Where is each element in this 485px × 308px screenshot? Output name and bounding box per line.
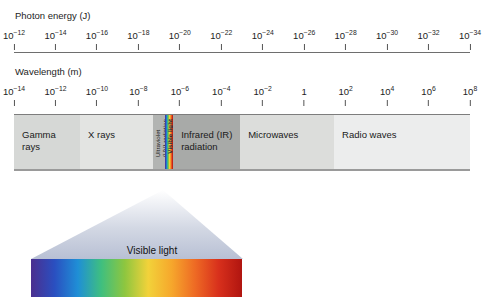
spectrum-region-ultraviolet-uv-radiation: Ultraviolet (UV) radiation xyxy=(153,115,165,169)
wavelength-tick-mark xyxy=(138,100,139,106)
visible-light-gradient-bar xyxy=(31,259,242,297)
electromagnetic-spectrum-band: Gamma raysX raysUltraviolet (UV) radiati… xyxy=(14,114,470,169)
wavelength-tick-label: 10−6 xyxy=(171,86,189,97)
wavelength-tick-label: 10−2 xyxy=(254,86,272,97)
spectrum-region-infrared-ir-radiation: Infrared (IR) radiation xyxy=(173,115,240,169)
photon-energy-tick: 10−20 xyxy=(169,30,191,50)
wavelength-tick: 10−4 xyxy=(212,86,230,106)
photon-energy-tick-label: 10−30 xyxy=(376,30,398,41)
wavelength-tick-label: 106 xyxy=(421,86,435,97)
wavelength-tick-mark xyxy=(221,100,222,106)
wavelength-tick: 106 xyxy=(421,86,435,106)
photon-energy-tick-label: 10−22 xyxy=(210,30,232,41)
photon-energy-tick-mark xyxy=(469,44,470,50)
wavelength-tick-label: 108 xyxy=(463,86,477,97)
wavelength-tick-mark xyxy=(387,100,388,106)
photon-energy-tick-mark xyxy=(179,44,180,50)
wavelength-tick-label: 10−12 xyxy=(44,86,66,97)
wavelength-tick-label: 10−14 xyxy=(3,86,25,97)
spectrum-region-label: X rays xyxy=(88,129,115,141)
photon-energy-tick-label: 10−16 xyxy=(86,30,108,41)
wavelength-tick: 10−8 xyxy=(129,86,147,106)
wavelength-tick-label: 10−4 xyxy=(212,86,230,97)
spectrum-region-label: Radio waves xyxy=(342,129,396,141)
wavelength-tick-label: 10−8 xyxy=(129,86,147,97)
photon-energy-tick: 10−24 xyxy=(252,30,274,50)
wavelength-tick-mark xyxy=(304,100,305,106)
photon-energy-tick-mark xyxy=(221,44,222,50)
photon-energy-tick: 10−30 xyxy=(376,30,398,50)
spectrum-region-x-rays: X rays xyxy=(80,115,153,169)
photon-energy-tick-label: 10−18 xyxy=(127,30,149,41)
wavelength-tick-mark xyxy=(13,100,14,106)
photon-energy-tick-mark xyxy=(96,44,97,50)
wavelength-tick: 1 xyxy=(302,86,307,106)
photon-energy-tick: 10−28 xyxy=(335,30,357,50)
photon-energy-tick-label: 10−20 xyxy=(169,30,191,41)
photon-energy-tick-mark xyxy=(262,44,263,50)
photon-energy-tick-label: 10−34 xyxy=(459,30,481,41)
wavelength-tick: 10−10 xyxy=(86,86,108,106)
spectrum-region-label: Microwaves xyxy=(248,129,298,141)
wavelength-tick-mark xyxy=(428,100,429,106)
photon-energy-tick: 10−16 xyxy=(86,30,108,50)
wavelength-tick: 10−14 xyxy=(3,86,25,106)
spectrum-region-visible-light: Visible light xyxy=(165,115,173,169)
photon-energy-axis-line xyxy=(14,52,470,53)
wavelength-tick-label: 10−10 xyxy=(86,86,108,97)
photon-energy-tick-label: 10−32 xyxy=(417,30,439,41)
wavelength-tick-label: 102 xyxy=(338,86,352,97)
wavelength-tick: 10−12 xyxy=(44,86,66,106)
wavelength-axis-title: Wavelength (m) xyxy=(15,66,82,77)
photon-energy-tick-mark xyxy=(13,44,14,50)
spectrum-region-gamma-rays: Gamma rays xyxy=(14,115,80,169)
visible-light-caption: Visible light xyxy=(100,245,204,256)
wavelength-tick-label: 1 xyxy=(302,86,307,97)
photon-energy-tick: 10−12 xyxy=(3,30,25,50)
wavelength-tick-mark xyxy=(345,100,346,106)
photon-energy-tick: 10−22 xyxy=(210,30,232,50)
photon-energy-tick-mark xyxy=(55,44,56,50)
wavelength-tick-mark xyxy=(55,100,56,106)
spectrum-region-label: Gamma rays xyxy=(22,129,56,152)
wavelength-tick: 10−2 xyxy=(254,86,272,106)
photon-energy-tick-label: 10−26 xyxy=(293,30,315,41)
wavelength-tick: 102 xyxy=(338,86,352,106)
wavelength-tick-mark xyxy=(262,100,263,106)
photon-energy-tick-label: 10−14 xyxy=(44,30,66,41)
wavelength-tick-mark xyxy=(96,100,97,106)
wavelength-scale: 10−1410−1210−1010−810−610−410−2110210410… xyxy=(14,86,470,112)
spectrum-region-label: Infrared (IR) radiation xyxy=(181,129,232,152)
photon-energy-tick-mark xyxy=(304,44,305,50)
wavelength-tick-mark xyxy=(179,100,180,106)
spectrum-region-microwaves: Microwaves xyxy=(240,115,334,169)
photon-energy-tick: 10−18 xyxy=(127,30,149,50)
photon-energy-tick-mark xyxy=(387,44,388,50)
wavelength-tick: 108 xyxy=(463,86,477,106)
photon-energy-axis-title: Photon energy (J) xyxy=(15,10,91,21)
photon-energy-tick-mark xyxy=(428,44,429,50)
wavelength-tick-mark xyxy=(469,100,470,106)
spectrum-region-radio-waves: Radio waves xyxy=(334,115,470,169)
photon-energy-tick: 10−32 xyxy=(417,30,439,50)
wavelength-tick-label: 104 xyxy=(380,86,394,97)
photon-energy-tick-label: 10−28 xyxy=(335,30,357,41)
photon-energy-tick-mark xyxy=(345,44,346,50)
wavelength-tick: 104 xyxy=(380,86,394,106)
photon-energy-tick-label: 10−24 xyxy=(252,30,274,41)
photon-energy-tick: 10−14 xyxy=(44,30,66,50)
photon-energy-tick: 10−34 xyxy=(459,30,481,50)
spectrum-band-shadow xyxy=(14,169,470,171)
photon-energy-tick: 10−26 xyxy=(293,30,315,50)
photon-energy-tick-label: 10−12 xyxy=(3,30,25,41)
wavelength-tick: 10−6 xyxy=(171,86,189,106)
photon-energy-tick-mark xyxy=(138,44,139,50)
